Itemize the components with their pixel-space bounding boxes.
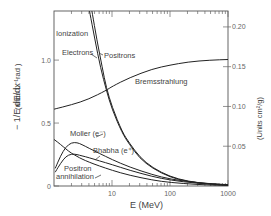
curve-label: Electrons xyxy=(62,48,94,57)
curve-label: Positrons xyxy=(104,51,136,60)
curve-label: Moller (e⁻) xyxy=(70,129,106,138)
right-y-axis-label: (Units cm²/g) xyxy=(255,97,264,140)
curve-label: Bhabha (e⁺) xyxy=(93,146,135,155)
left-y-axis-units: (units L⁻¹rad ) xyxy=(13,63,22,110)
right-y-axis-title: (Units cm²/g) xyxy=(255,97,264,140)
curve-label: Ionization xyxy=(56,29,88,38)
y-right-tick-label: 0.05 xyxy=(232,143,246,150)
y-left-tick-label: 0 xyxy=(47,183,51,190)
annotations: IonizationElectronsPositronsBremsstrahlu… xyxy=(56,29,188,181)
x-tick-label: 1000 xyxy=(220,190,236,197)
x-tick-label: 10 xyxy=(108,190,116,197)
y-left-tick-label: 0.5 xyxy=(41,120,51,127)
energy-loss-chart: 101001000 00.51.0 0.050.100.150.20 Ioniz… xyxy=(0,0,271,216)
annihilation-arrow xyxy=(95,175,101,178)
x-axis-label: E (MeV) xyxy=(130,200,163,210)
y-right-tick-label: 0.20 xyxy=(232,23,246,30)
curve-positrons-ionization xyxy=(92,11,228,185)
curve-label: Bremsstrahlung xyxy=(135,77,188,86)
bhabha-arrow xyxy=(95,156,100,160)
left-y-axis-units-text: (units L⁻¹rad ) xyxy=(13,63,22,110)
curve-label: annihilation xyxy=(56,172,94,181)
y-right-tick-label: 0.15 xyxy=(232,63,246,70)
right-y-axis-ticks: 0.050.100.150.20 xyxy=(223,23,246,149)
x-tick-label: 100 xyxy=(164,190,176,197)
y-left-tick-label: 1.0 xyxy=(41,57,51,64)
y-right-tick-label: 0.10 xyxy=(232,103,246,110)
